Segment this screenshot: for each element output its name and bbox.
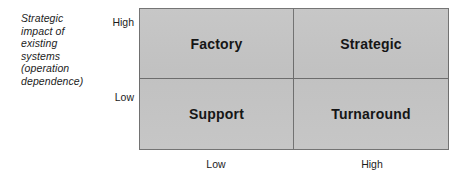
quadrant-support: Support: [140, 79, 294, 149]
x-axis-tick-low: Low: [186, 158, 246, 170]
y-axis-caption-line: existing: [21, 37, 101, 50]
x-axis-tick-high: High: [342, 158, 402, 170]
y-axis-caption-line: systems: [21, 50, 101, 63]
matrix-grid: Factory Strategic Support Turnaround: [139, 8, 449, 150]
y-axis-tick-high: High: [88, 16, 134, 28]
y-axis-tick-low: Low: [88, 91, 134, 103]
y-axis-caption-line: dependence): [21, 75, 101, 88]
quadrant-strategic: Strategic: [294, 9, 448, 79]
y-axis-caption-line: (operation: [21, 62, 101, 75]
quadrant-factory: Factory: [140, 9, 294, 79]
matrix-figure: Strategic impact of existing systems (op…: [0, 0, 462, 187]
quadrant-turnaround: Turnaround: [294, 79, 448, 149]
